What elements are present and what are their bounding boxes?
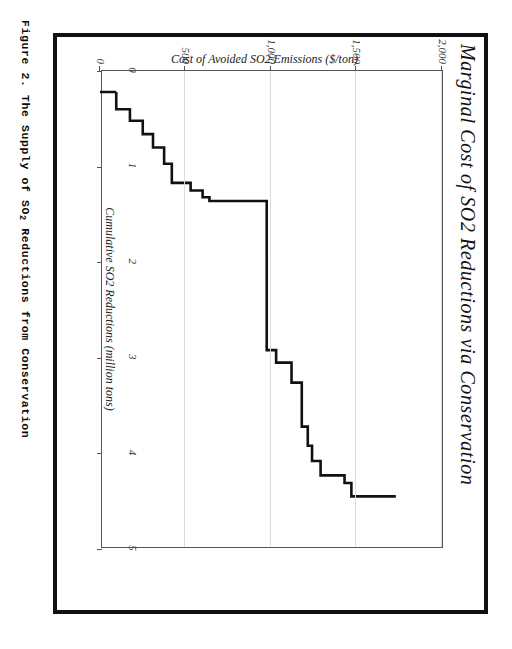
x-axis-tick-label: 4 (127, 450, 139, 456)
figure-caption-tail: Reductions from Conservation (19, 221, 32, 439)
y-axis-tick (441, 66, 442, 71)
x-axis-tick-label: 3 (127, 354, 139, 360)
chart-canvas: Marginal Cost of SO2 Reductions via Cons… (56, 36, 485, 611)
y-axis-tick-label: 500 (181, 36, 193, 64)
y-axis-tick (270, 66, 271, 71)
y-axis-tick-label: 2,000 (437, 36, 449, 64)
figure-caption-main: Figure 2. The Supply of SO (19, 20, 32, 215)
step-curve-path (116, 92, 396, 496)
x-axis-tick-label: 5 (127, 545, 139, 551)
y-axis-tick-label: 1,000 (266, 36, 278, 64)
y-axis-tick (185, 66, 186, 71)
gridline-y (270, 71, 271, 547)
y-axis-tick (356, 66, 357, 71)
x-axis-tick-label: 0 (127, 67, 139, 73)
y-axis-tick-label: 0 (95, 36, 107, 64)
x-axis-tick-label: 2 (127, 258, 139, 264)
gridline-y (441, 71, 442, 547)
y-axis-label: Cost of Avoided SO2 Emissions ($/ton) (94, 52, 436, 67)
x-axis-tick (97, 549, 102, 550)
plot-area (101, 70, 443, 548)
x-axis-tick-label: 1 (127, 163, 139, 169)
chart-title: Marginal Cost of SO2 Reductions via Cons… (456, 44, 479, 485)
y-axis-tick-label: 1,500 (352, 36, 364, 64)
x-axis-label: Cumulative SO2 Reductions (million tons) (102, 70, 117, 548)
figure-page: Figure 2. The Supply of SO2 Reductions f… (0, 0, 512, 649)
gridline-y (185, 71, 186, 547)
gridline-y (356, 71, 357, 547)
step-curve-svg (100, 71, 442, 549)
figure-caption: Figure 2. The Supply of SO2 Reductions f… (14, 20, 36, 610)
